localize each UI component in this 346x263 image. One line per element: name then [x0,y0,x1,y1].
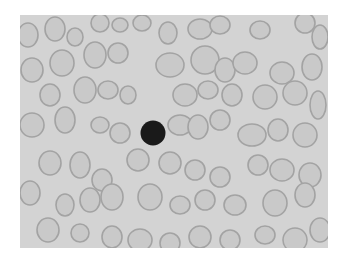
red-blood-cell [188,19,212,39]
nucleated-cell [141,121,166,146]
red-blood-cell [283,81,307,105]
red-blood-cell [268,119,288,141]
red-blood-cell [91,117,109,133]
red-blood-cell [295,15,315,33]
red-blood-cell [170,196,190,214]
red-blood-cell [295,183,315,207]
red-blood-cell [20,181,40,205]
red-blood-cell [40,84,60,106]
red-blood-cell [310,91,326,119]
red-blood-cell [188,115,208,139]
blood-smear-canvas [20,15,328,248]
microscopy-image [20,15,328,248]
red-blood-cell [156,53,184,77]
red-blood-cell [159,152,181,174]
red-blood-cell [255,226,275,244]
red-blood-cell [127,149,149,171]
red-blood-cell [248,155,268,175]
red-blood-cell [21,58,43,82]
red-blood-cell [210,16,230,34]
red-blood-cell [120,86,136,104]
red-blood-cell [84,42,106,68]
red-blood-cell [45,17,65,41]
red-blood-cell [159,22,177,44]
red-blood-cell [80,188,100,212]
red-blood-cell [102,226,122,248]
red-blood-cell [70,152,90,178]
red-blood-cell [37,218,59,242]
red-blood-cell [101,184,123,210]
red-blood-cell [55,107,75,133]
red-blood-cell [20,113,44,137]
red-blood-cell [283,228,307,248]
red-blood-cell [110,123,130,143]
red-blood-cell [112,18,128,32]
red-blood-cell [222,84,242,106]
red-blood-cell [270,159,294,181]
red-blood-cell [67,28,83,46]
red-blood-cell [50,50,74,76]
red-blood-cell [160,233,180,248]
red-blood-cell [138,184,162,210]
red-blood-cell [250,21,270,39]
red-blood-cell [39,151,61,175]
red-blood-cell [74,77,96,103]
red-blood-cell [133,15,151,31]
red-blood-cell [253,85,277,109]
red-blood-cell [220,230,240,248]
red-blood-cell [238,124,266,146]
red-blood-cell [215,58,235,82]
red-blood-cell [71,224,89,242]
red-blood-cell [20,23,38,47]
red-blood-cell [302,54,322,80]
red-blood-cell [270,62,294,84]
red-blood-cell [310,218,328,242]
red-blood-cell [210,110,230,130]
red-blood-cell [128,229,152,248]
red-blood-cell [108,43,128,63]
red-blood-cell [195,190,215,210]
red-blood-cell [293,123,317,147]
red-blood-cell [189,226,211,248]
red-blood-cell [185,160,205,180]
red-blood-cell [263,190,287,216]
red-blood-cell [173,84,197,106]
red-blood-cell [198,81,218,99]
red-blood-cell [224,195,246,215]
red-blood-cell [210,167,230,187]
red-blood-cell [98,81,118,99]
red-blood-cell [233,52,257,74]
red-blood-cell [91,15,109,32]
red-blood-cell [56,194,74,216]
red-blood-cell [312,25,328,49]
